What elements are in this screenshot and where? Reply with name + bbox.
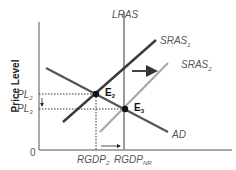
lras-label: LRAS bbox=[112, 9, 138, 20]
sras1-label: SRAS1 bbox=[160, 35, 191, 48]
e3-point bbox=[122, 106, 128, 112]
e2-point bbox=[93, 91, 99, 97]
pl2-tick-label: PL2 bbox=[17, 89, 33, 101]
chart: Price Level 0 LRAS SRAS1 SRAS2 AD E2 E3 … bbox=[0, 0, 236, 170]
pl3-tick-label: PL3 bbox=[17, 103, 33, 115]
e2-label: E2 bbox=[105, 87, 116, 99]
origin-label: 0 bbox=[30, 147, 36, 158]
rgdp2-tick-label: RGDP2 bbox=[77, 154, 110, 166]
sras2-label: SRAS2 bbox=[181, 59, 212, 72]
rgdpnr-tick-label: RGDPNR bbox=[114, 154, 152, 166]
ad-label: AD bbox=[171, 129, 186, 140]
e3-label: E3 bbox=[134, 102, 145, 114]
